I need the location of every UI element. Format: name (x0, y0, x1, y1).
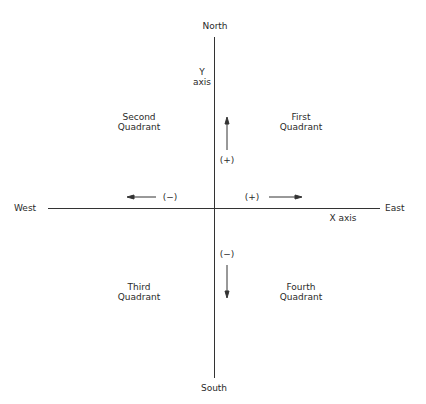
direction-arrows (0, 0, 426, 404)
arrow-right-icon (269, 195, 302, 199)
arrow-left-icon (127, 195, 156, 199)
arrow-down-icon (225, 265, 229, 298)
arrow-up-icon (225, 117, 229, 150)
